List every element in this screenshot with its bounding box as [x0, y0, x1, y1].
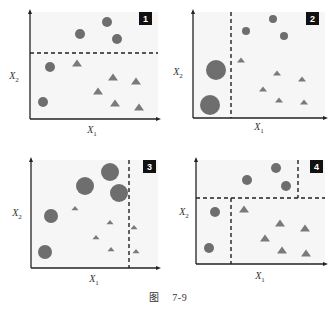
circle-point — [76, 177, 94, 195]
circle-point — [280, 32, 288, 40]
y-axis-arrow-icon — [28, 9, 32, 14]
y-axis-label: X2 — [172, 66, 183, 80]
circle-point — [38, 97, 48, 107]
panel-4: 4X1X2 — [178, 157, 328, 284]
x-axis-label: X1 — [253, 121, 264, 135]
panel-number: 4 — [314, 162, 319, 172]
circle-point — [281, 181, 291, 191]
panel-number: 2 — [310, 14, 315, 24]
caption-prefix: 图 — [149, 289, 160, 304]
circle-point — [210, 207, 220, 217]
x-axis-arrow-icon — [323, 116, 328, 120]
circle-point — [200, 95, 220, 115]
figure-caption: 图 7-9 — [0, 289, 336, 304]
panel-3: 3X1X2 — [11, 157, 161, 287]
x-axis-arrow-icon — [156, 117, 161, 121]
circle-point — [110, 184, 128, 202]
circle-point — [101, 163, 119, 181]
panel-number: 1 — [143, 14, 148, 24]
y-axis-arrow-icon — [194, 157, 198, 162]
panel-2: 2X1X2 — [172, 9, 328, 135]
y-axis-arrow-icon — [191, 9, 195, 14]
x-axis-label: X1 — [88, 273, 99, 287]
circle-point — [112, 34, 122, 44]
panel-1: 1X1X2 — [8, 9, 161, 138]
circle-point — [75, 29, 85, 39]
panel-number: 3 — [147, 162, 152, 172]
x-axis-label: X1 — [254, 270, 265, 284]
circle-point — [44, 209, 58, 223]
y-axis-label: X2 — [178, 206, 189, 220]
circle-point — [45, 62, 55, 72]
x-axis-arrow-icon — [156, 266, 161, 270]
circle-point — [206, 60, 226, 80]
caption-number: 7-9 — [172, 292, 187, 303]
x-axis-label: X1 — [86, 124, 97, 138]
figure-canvas: 1X1X22X1X23X1X24X1X2 — [0, 0, 336, 313]
y-axis-arrow-icon — [29, 157, 33, 162]
circle-point — [102, 17, 112, 27]
y-axis-label: X2 — [8, 70, 19, 84]
circle-point — [242, 27, 250, 35]
circle-point — [242, 175, 252, 185]
circle-point — [204, 243, 214, 253]
circle-point — [269, 15, 277, 23]
x-axis-arrow-icon — [323, 262, 328, 266]
y-axis-label: X2 — [11, 207, 22, 221]
circle-point — [38, 245, 52, 259]
circle-point — [271, 163, 281, 173]
